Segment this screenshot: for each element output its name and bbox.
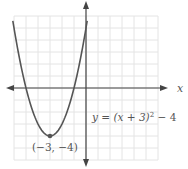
y-axis-up-arrow-icon (83, 1, 89, 9)
vertex-label: (−3, −4) (32, 141, 78, 153)
equation-rhs: − 4 (154, 111, 176, 123)
x-axis-label: x (177, 82, 184, 95)
parabola-graph: x y = (x + 3)2 − 4 (−3, −4) (0, 0, 188, 169)
equation-label: y = (x + 3)2 − 4 (91, 111, 177, 123)
vertex-point (48, 134, 53, 139)
x-axis-right-arrow-icon (160, 85, 168, 91)
y-axis-down-arrow-icon (83, 159, 89, 167)
x-axis-left-arrow-icon (6, 85, 14, 91)
equation-lhs: y = (x + 3) (91, 111, 150, 123)
